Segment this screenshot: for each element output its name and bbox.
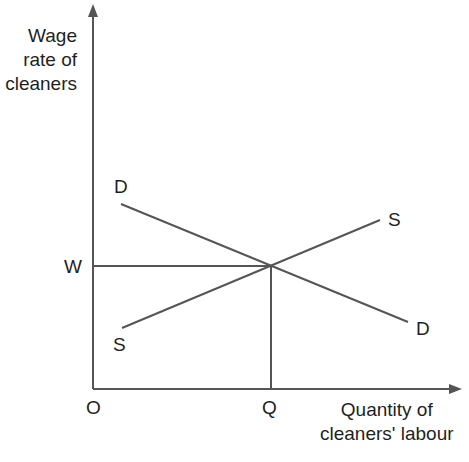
supply-label-end: S	[388, 209, 401, 231]
supply-label-start: S	[113, 334, 126, 356]
y-axis-label-line: Wage	[5, 24, 77, 48]
x-axis-arrow-icon	[449, 384, 462, 394]
demand-label-start: D	[114, 176, 128, 198]
quantity-label: Q	[262, 397, 277, 419]
supply-curve	[122, 220, 380, 328]
x-axis-label-line: cleaners' labour	[320, 422, 454, 446]
demand-label-end: D	[416, 318, 430, 340]
wage-label: W	[64, 256, 82, 278]
y-axis-arrow-icon	[88, 4, 98, 17]
x-axis-label: Quantity of cleaners' labour	[320, 398, 454, 446]
y-axis-label: Wage rate of cleaners	[5, 24, 77, 96]
y-axis-label-line: rate of	[5, 48, 77, 72]
origin-label: O	[86, 397, 101, 419]
x-axis-label-line: Quantity of	[320, 398, 454, 422]
demand-curve	[121, 204, 408, 322]
y-axis-label-line: cleaners	[5, 72, 77, 96]
